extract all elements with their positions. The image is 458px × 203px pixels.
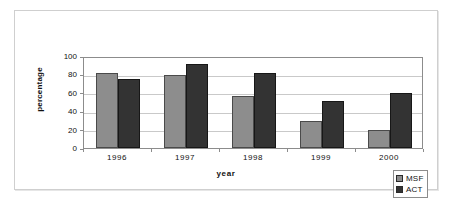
y-tick-mark bbox=[80, 57, 83, 58]
bar-msf-1997 bbox=[164, 75, 186, 148]
bar-act-1999 bbox=[322, 101, 344, 148]
y-tick-label: 0 bbox=[51, 145, 77, 153]
y-tick-label: 40 bbox=[51, 108, 77, 116]
y-tick-label: 60 bbox=[51, 90, 77, 98]
legend-item-msf: MSF bbox=[396, 173, 424, 184]
bar-act-1997 bbox=[186, 64, 208, 148]
x-tick-mark bbox=[355, 149, 356, 152]
legend-label-act: ACT bbox=[406, 186, 423, 194]
bar-msf-1996 bbox=[96, 73, 118, 148]
legend-item-act: ACT bbox=[396, 184, 424, 195]
x-tick-label: 1997 bbox=[155, 153, 215, 162]
x-tick-mark bbox=[423, 149, 424, 152]
y-tick-mark bbox=[80, 75, 83, 76]
legend-swatch-msf bbox=[396, 175, 403, 182]
chart-frame: percentage 020406080100 1996199719981999… bbox=[14, 10, 438, 190]
y-tick-mark bbox=[80, 130, 83, 131]
bar-msf-2000 bbox=[368, 130, 390, 148]
y-tick-label: 100 bbox=[51, 53, 77, 61]
x-tick-label: 1996 bbox=[87, 153, 147, 162]
y-tick-label: 80 bbox=[51, 71, 77, 79]
bar-act-1996 bbox=[118, 79, 140, 148]
bar-msf-1999 bbox=[300, 121, 322, 148]
y-axis-ticks: 020406080100 bbox=[51, 57, 77, 149]
chart-figure: percentage 020406080100 1996199719981999… bbox=[0, 0, 458, 203]
bar-msf-1998 bbox=[232, 96, 254, 148]
x-axis-title: year bbox=[15, 169, 437, 178]
x-tick-mark bbox=[151, 149, 152, 152]
chart-legend: MSF ACT bbox=[393, 170, 428, 198]
y-axis-title: percentage bbox=[35, 60, 44, 120]
y-tick-mark bbox=[80, 93, 83, 94]
legend-label-msf: MSF bbox=[406, 175, 424, 183]
x-tick-label: 1998 bbox=[223, 153, 283, 162]
x-tick-mark bbox=[219, 149, 220, 152]
legend-swatch-act bbox=[396, 186, 403, 193]
x-tick-label: 1999 bbox=[291, 153, 351, 162]
bar-act-2000 bbox=[390, 93, 412, 148]
gridline bbox=[84, 76, 422, 77]
y-tick-label: 20 bbox=[51, 127, 77, 135]
x-tick-mark bbox=[83, 149, 84, 152]
x-tick-label: 2000 bbox=[359, 153, 419, 162]
plot-area bbox=[83, 57, 423, 149]
y-tick-mark bbox=[80, 112, 83, 113]
x-tick-mark bbox=[287, 149, 288, 152]
bar-act-1998 bbox=[254, 73, 276, 148]
